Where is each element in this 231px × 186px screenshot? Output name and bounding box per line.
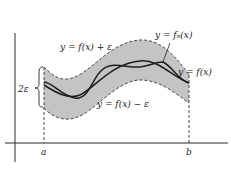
x-label-a: a bbox=[41, 147, 46, 157]
brace-icon bbox=[35, 67, 43, 107]
x-label-b: b bbox=[186, 147, 192, 157]
lower-curve-label: y = f(x) − ε bbox=[96, 99, 149, 109]
diagram-canvas: 2ε y = f(x) + ε y = f(x) − ε y = fₙ(x) y… bbox=[0, 0, 231, 186]
f-curve-label: y = f(x) bbox=[177, 67, 212, 77]
band-width-label: 2ε bbox=[17, 84, 29, 94]
fn-curve-label: y = fₙ(x) bbox=[154, 30, 193, 40]
upper-curve-label: y = f(x) + ε bbox=[59, 42, 112, 52]
